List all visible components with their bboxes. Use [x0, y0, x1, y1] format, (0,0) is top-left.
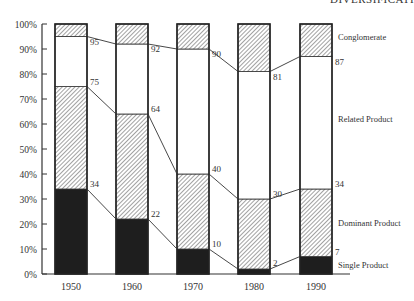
segment-dominant-product — [55, 87, 87, 190]
segment-dominant-product — [177, 174, 209, 249]
bar-1950 — [55, 24, 87, 274]
value-label-related: 87 — [335, 57, 345, 67]
y-tick-label: 70% — [20, 95, 38, 105]
bar-1980 — [238, 24, 270, 274]
connector-dominant — [87, 87, 116, 115]
value-label-related: 90 — [212, 49, 222, 59]
connector-single — [148, 219, 177, 249]
x-tick-label: 1960 — [122, 281, 142, 292]
value-label-single: 2 — [273, 258, 278, 268]
segment-related-product — [177, 49, 209, 174]
connector-single — [87, 189, 116, 219]
value-label-single: 10 — [212, 239, 222, 249]
segment-single-product — [300, 257, 332, 275]
value-label-related: 81 — [273, 72, 282, 82]
segment-single-product — [116, 219, 148, 274]
y-tick-label: 50% — [20, 145, 38, 155]
segment-conglomerate — [55, 24, 87, 37]
value-label-dominant: 64 — [151, 104, 161, 114]
y-tick-label: 100% — [15, 20, 37, 30]
y-tick-label: 30% — [20, 195, 38, 205]
legend-label: Dominant Product — [338, 218, 401, 228]
connector-single — [209, 249, 238, 269]
value-label-single: 7 — [335, 247, 340, 257]
y-tick-label: 60% — [20, 120, 38, 130]
segment-conglomerate — [300, 24, 332, 57]
bar-1970 — [177, 24, 209, 274]
segment-related-product — [55, 37, 87, 87]
y-tick-label: 20% — [20, 220, 38, 230]
value-label-dominant: 34 — [335, 179, 345, 189]
segment-single-product — [177, 249, 209, 274]
bar-1960 — [116, 24, 148, 274]
connector-dominant — [209, 174, 238, 199]
legend-label: Conglomerate — [338, 32, 386, 42]
legend-label: Related Product — [338, 114, 393, 124]
x-tick-label: 1950 — [61, 281, 81, 292]
segment-related-product — [300, 57, 332, 190]
y-tick-label: 0% — [24, 270, 37, 280]
segment-related-product — [116, 44, 148, 114]
legend: ConglomerateRelated ProductDominant Prod… — [338, 32, 401, 270]
value-label-related: 95 — [90, 37, 100, 47]
segment-dominant-product — [116, 114, 148, 219]
y-tick-label: 10% — [20, 245, 38, 255]
segment-dominant-product — [300, 189, 332, 257]
connector-dominant — [148, 114, 177, 174]
y-tick-label: 40% — [20, 170, 38, 180]
segment-conglomerate — [116, 24, 148, 44]
y-tick-label: 90% — [20, 45, 38, 55]
x-axis: 19501960197019801990 — [61, 281, 326, 292]
connector-related — [270, 57, 300, 72]
value-label-dominant: 40 — [212, 164, 222, 174]
value-label-dominant: 30 — [273, 189, 283, 199]
value-label-single: 22 — [151, 209, 160, 219]
y-tick-label: 80% — [20, 70, 38, 80]
x-tick-label: 1980 — [244, 281, 264, 292]
value-label-single: 34 — [90, 179, 100, 189]
value-label-dominant: 75 — [90, 77, 100, 87]
segment-conglomerate — [238, 24, 270, 72]
bar-1990 — [300, 24, 332, 274]
segment-dominant-product — [238, 199, 270, 269]
x-tick-label: 1970 — [183, 281, 203, 292]
segment-single-product — [55, 189, 87, 274]
segment-related-product — [238, 72, 270, 200]
legend-label: Single Product — [338, 260, 389, 270]
x-tick-label: 1990 — [306, 281, 326, 292]
value-label-related: 92 — [151, 44, 160, 54]
segment-conglomerate — [177, 24, 209, 49]
